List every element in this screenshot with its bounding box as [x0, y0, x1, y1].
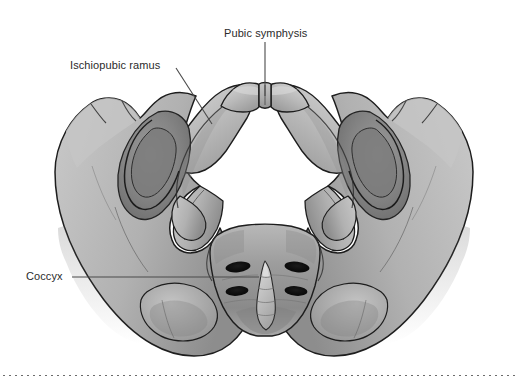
label-pubic-symphysis: Pubic symphysis [224, 27, 307, 40]
pelvis-figure: Pubic symphysis Ischiopubic ramus Coccyx [0, 0, 516, 385]
label-coccyx: Coccyx [26, 270, 63, 283]
footer-dotted-rule [0, 374, 516, 377]
label-ischiopubic-ramus: Ischiopubic ramus [70, 59, 160, 72]
pelvic-girdle [55, 83, 473, 357]
pelvis-illustration [0, 0, 516, 385]
